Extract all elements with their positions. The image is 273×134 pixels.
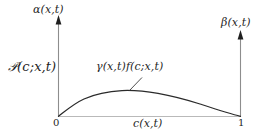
beta-arrowhead [238,30,244,40]
gamma-f-curve-label: γ(x,t)f(c;x,t) [96,61,163,72]
probability-axis-label: 𝒫(c;x,t) [8,60,56,73]
x-tick-right-label: 1 [238,118,244,128]
distribution-curve [59,90,241,116]
beta-label: β(x,t) [221,17,251,28]
figure-canvas: α(x,t) β(x,t) 𝒫(c;x,t) γ(x,t)f(c;x,t) c(… [0,0,273,134]
alpha-arrowhead [56,15,62,25]
gamma-leader-line [130,78,143,91]
x-tick-left-label: 0 [53,118,59,128]
x-axis-label: c(x,t) [133,118,162,129]
alpha-label: α(x,t) [33,4,64,15]
